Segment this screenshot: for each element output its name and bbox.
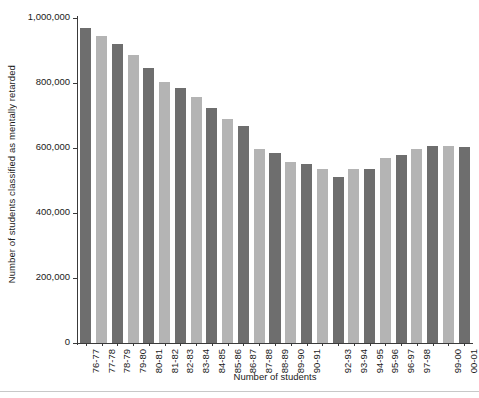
bar (364, 169, 375, 343)
x-tick-mark (322, 343, 323, 346)
y-axis-tick: 600,000 (0, 148, 78, 149)
y-tick-label: 400,000 (36, 206, 70, 217)
y-axis-tick: 400,000 (0, 213, 78, 214)
x-tick-mark (354, 343, 355, 346)
x-tick-label: 90-91 (311, 349, 322, 373)
x-tick-mark (275, 343, 276, 346)
x-tick-mark (417, 343, 418, 346)
bar (348, 169, 359, 343)
x-tick-mark (196, 343, 197, 346)
bar (317, 169, 328, 343)
x-tick-label: 80-81 (153, 349, 164, 373)
y-axis-tick: 1,000,000 (0, 18, 78, 19)
x-tick-label: 95-96 (389, 349, 400, 373)
x-tick-mark (385, 343, 386, 346)
x-tick-label: 79-80 (137, 349, 148, 373)
bar (285, 162, 296, 343)
x-tick-label: 85-86 (232, 349, 243, 373)
x-tick-label: 89-90 (295, 349, 306, 373)
x-tick-label: 76-77 (90, 349, 101, 373)
x-tick-mark (102, 343, 103, 346)
chart-figure: Number of students classified as mentall… (0, 0, 479, 398)
bar (175, 88, 186, 343)
bar (206, 108, 217, 343)
x-tick-label: 97-98 (421, 349, 432, 373)
x-tick-label: 96-97 (405, 349, 416, 373)
y-axis-tick: 200,000 (0, 278, 78, 279)
x-tick-mark (401, 343, 402, 346)
x-tick-mark (291, 343, 292, 346)
bar (143, 68, 154, 343)
bar (159, 82, 170, 343)
x-tick-label: 77-78 (106, 349, 117, 373)
x-tick-mark (259, 343, 260, 346)
x-tick-mark (433, 343, 434, 346)
x-tick-mark (448, 343, 449, 346)
y-axis-tick: 0 (0, 343, 78, 344)
x-tick-label: 81-82 (169, 349, 180, 373)
x-tick-label: 94-95 (374, 349, 385, 373)
bar (427, 146, 438, 343)
y-tick-mark (73, 343, 78, 344)
x-tick-mark (180, 343, 181, 346)
x-tick-label: 87-88 (263, 349, 274, 373)
y-tick-label: 600,000 (36, 141, 70, 152)
page-divider (0, 391, 479, 392)
bar (238, 126, 249, 343)
x-tick-mark (149, 343, 150, 346)
x-tick-label: 78-79 (121, 349, 132, 373)
y-tick-label: 0 (65, 336, 70, 347)
y-axis-title-text: Number of students classified as mentall… (6, 65, 17, 283)
x-tick-mark (86, 343, 87, 346)
x-tick-label: 84-85 (216, 349, 227, 373)
bar (269, 153, 280, 343)
y-axis-title: Number of students classified as mentall… (0, 0, 22, 348)
x-tick-mark (307, 343, 308, 346)
bar (333, 177, 344, 343)
y-axis-tick: 800,000 (0, 83, 78, 84)
bar (128, 55, 139, 343)
y-tick-label: 200,000 (36, 271, 70, 282)
bar (396, 155, 407, 344)
bar (254, 149, 265, 343)
x-tick-mark (338, 343, 339, 346)
x-tick-mark (212, 343, 213, 346)
x-tick-mark (243, 343, 244, 346)
bar (222, 119, 233, 343)
x-tick-label: 88-89 (279, 349, 290, 373)
bar (443, 146, 454, 343)
bar (191, 97, 202, 343)
x-tick-label: 86-87 (247, 349, 258, 373)
plot-area (78, 18, 472, 343)
x-tick-mark (464, 343, 465, 346)
bar (301, 164, 312, 343)
x-tick-mark (228, 343, 229, 346)
x-tick-label: 99-00 (452, 349, 463, 373)
x-tick-label: 82-83 (184, 349, 195, 373)
bar (112, 44, 123, 343)
x-tick-mark (165, 343, 166, 346)
bar (380, 158, 391, 343)
bar (96, 36, 107, 343)
x-tick-mark (117, 343, 118, 346)
x-tick-label: 92-93 (342, 349, 353, 373)
bar (459, 147, 470, 343)
x-axis-title: Number of students (78, 371, 472, 382)
x-tick-label: 83-84 (200, 349, 211, 373)
bar (411, 149, 422, 343)
bar (80, 28, 91, 343)
x-tick-mark (370, 343, 371, 346)
y-tick-label: 800,000 (36, 76, 70, 87)
x-tick-label: 00-01 (468, 349, 479, 373)
x-tick-label: 93-94 (358, 349, 369, 373)
y-tick-label: 1,000,000 (28, 11, 70, 22)
x-tick-mark (133, 343, 134, 346)
